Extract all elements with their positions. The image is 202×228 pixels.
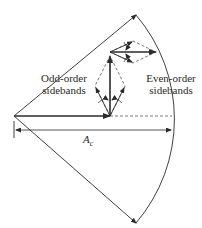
lower-radius-line [14,116,136,223]
odd-lower-sideband [96,88,110,116]
carrier-amplitude-label: Ac [83,133,93,148]
ac-main: A [83,133,90,145]
phasor-diagram [0,0,202,228]
even-order-label-line1: Even-order [140,72,202,84]
odd-order-label: Odd-order sidebands [34,72,94,96]
even-order-label-line2: sidebands [140,84,202,96]
even-rotation-top [124,42,127,50]
ac-subscript: c [90,139,94,148]
odd-order-label-line1: Odd-order [34,72,94,84]
even-order-label: Even-order sidebands [140,72,202,96]
even-lower-sideband [110,52,132,62]
odd-order-label-line2: sidebands [34,84,94,96]
even-rotation-bottom [124,54,127,62]
locus-arc [136,15,174,223]
odd-upper-sideband [110,88,124,116]
even-upper-sideband [110,42,132,52]
